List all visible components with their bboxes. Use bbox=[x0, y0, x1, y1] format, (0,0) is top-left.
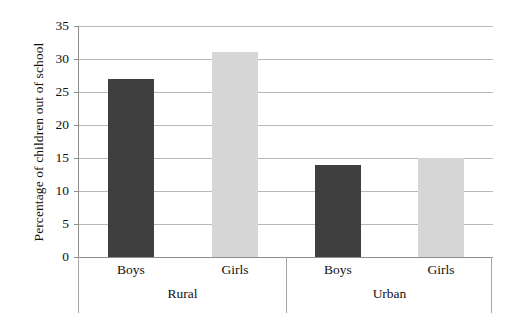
y-axis-tick-mark bbox=[74, 59, 79, 60]
y-axis-tick-label: 0 bbox=[35, 249, 69, 265]
y-axis-tick: 15 bbox=[79, 158, 80, 159]
bar-chart: Percentage of children out of school 051… bbox=[0, 0, 506, 331]
gridline bbox=[79, 26, 493, 27]
y-axis-tick-mark bbox=[74, 92, 79, 93]
y-axis-tick-label: 15 bbox=[35, 150, 69, 166]
y-axis-tick-mark bbox=[74, 191, 79, 192]
y-axis-tick-label: 5 bbox=[35, 216, 69, 232]
y-axis-tick-mark bbox=[74, 26, 79, 27]
y-axis-tick: 30 bbox=[79, 59, 80, 60]
group-divider bbox=[286, 257, 287, 313]
x-axis-category-label: Girls bbox=[185, 259, 285, 281]
gridline bbox=[79, 59, 493, 60]
x-axis-label-band: BoysGirlsBoysGirls RuralUrban bbox=[78, 257, 492, 313]
y-axis-tick: 5 bbox=[79, 224, 80, 225]
bar bbox=[315, 165, 361, 257]
x-axis-category-label: Boys bbox=[288, 259, 388, 281]
y-axis-tick-label: 35 bbox=[35, 18, 69, 34]
bar bbox=[108, 79, 154, 257]
y-axis-tick-mark bbox=[74, 125, 79, 126]
y-axis-tick-label: 30 bbox=[35, 51, 69, 67]
y-axis-tick: 10 bbox=[79, 191, 80, 192]
y-axis-tick-mark bbox=[74, 158, 79, 159]
plot-area: 05101520253035 bbox=[78, 26, 492, 257]
bar bbox=[418, 158, 464, 257]
x-axis-group-label: Urban bbox=[286, 283, 493, 305]
y-axis-tick-label: 25 bbox=[35, 84, 69, 100]
bar bbox=[212, 52, 258, 257]
x-axis-group-label: Rural bbox=[79, 283, 286, 305]
y-axis-tick: 35 bbox=[79, 26, 80, 27]
y-axis-tick: 25 bbox=[79, 92, 80, 93]
y-axis-tick-label: 20 bbox=[35, 117, 69, 133]
x-axis-category-label: Girls bbox=[391, 259, 491, 281]
y-axis-tick: 20 bbox=[79, 125, 80, 126]
y-axis-tick-label: 10 bbox=[35, 183, 69, 199]
x-axis-category-label: Boys bbox=[81, 259, 181, 281]
y-axis-tick-mark bbox=[74, 224, 79, 225]
